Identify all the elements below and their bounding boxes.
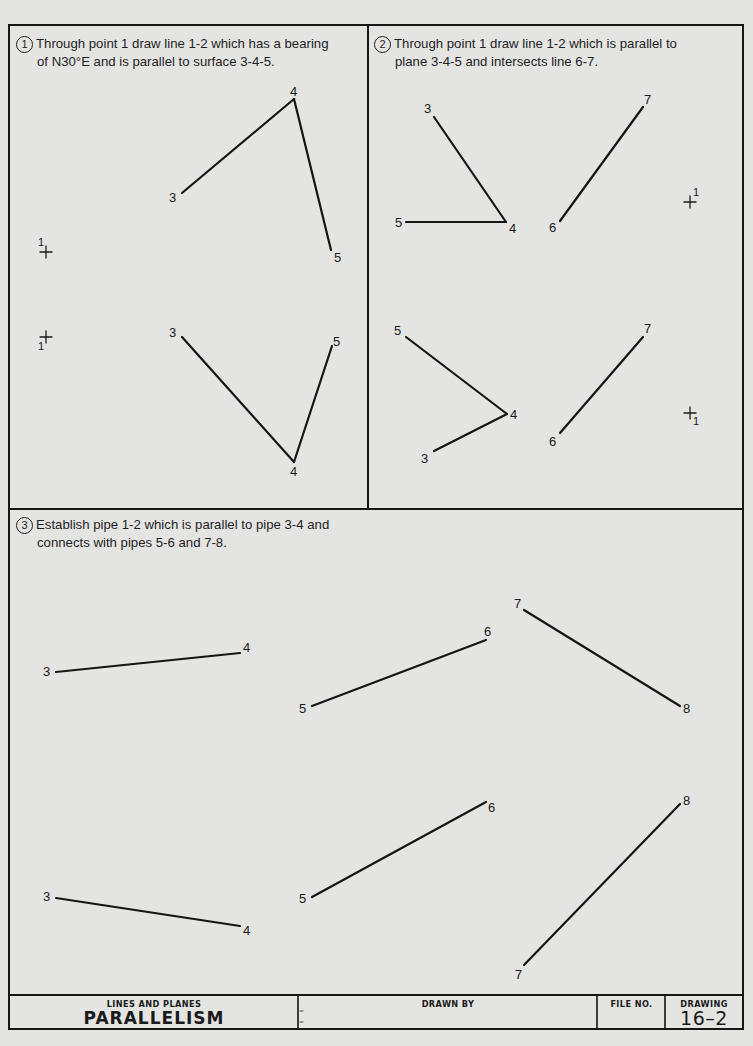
titleblock-file-no-cell[interactable]: FILE NO. (598, 999, 665, 1009)
titleblock-drawing-cell: DRAWING 16–2 (666, 999, 742, 1029)
file-no-label: FILE NO. (598, 999, 665, 1009)
p1-top-view-surface: 3 4 5 1 (38, 84, 341, 265)
point-label: 1 (38, 236, 44, 248)
point-label: 3 (424, 101, 431, 116)
point-label: 5 (299, 701, 306, 716)
point-label: 5 (299, 891, 306, 906)
point-label: 4 (510, 407, 517, 422)
titleblock-subject-cell: LINES AND PLANES PARALLELISM (10, 999, 298, 1028)
point-label: 4 (243, 923, 250, 938)
point-label: 3 (43, 664, 50, 679)
p2-top-view-plane-and-line: 3 4 5 6 7 1 (395, 92, 699, 236)
point-label: 4 (290, 84, 297, 99)
point-label: 1 (693, 415, 699, 427)
point-label: 5 (394, 323, 401, 338)
point-label: 3 (169, 190, 176, 205)
point-label: 4 (243, 640, 250, 655)
point-label: 6 (549, 220, 556, 235)
point-label: 6 (549, 434, 556, 449)
p1-front-view-surface: 3 4 5 1 (38, 325, 340, 479)
point-label: 3 (43, 889, 50, 904)
drawing-title: PARALLELISM (10, 1008, 298, 1028)
point-1-marker: 1 (38, 331, 52, 352)
point-1-marker: 1 (684, 407, 699, 427)
point-label: 3 (169, 325, 176, 340)
geometry-figures: 3 4 5 1 3 4 5 1 3 4 5 6 7 1 (0, 0, 753, 1046)
drawing-number: 16–2 (666, 1007, 742, 1029)
point-label: 7 (514, 596, 521, 611)
point-1-marker: 1 (38, 236, 52, 258)
drawn-by-label: DRAWN BY (299, 999, 597, 1009)
point-label: 7 (644, 321, 651, 336)
point-label: 5 (334, 250, 341, 265)
point-label: 3 (421, 451, 428, 466)
p3-front-view-pipes: 3 4 5 6 7 8 (43, 793, 690, 982)
point-label: 1 (693, 186, 699, 198)
point-label: 4 (290, 464, 297, 479)
point-label: 8 (683, 701, 690, 716)
point-label: 8 (683, 793, 690, 808)
point-label: 7 (515, 967, 522, 982)
point-label: 1 (38, 340, 44, 352)
point-label: 7 (644, 92, 651, 107)
p2-front-view-plane-and-line: 3 4 5 6 7 1 (394, 321, 699, 466)
point-label: 5 (333, 334, 340, 349)
p3-top-view-pipes: 3 4 5 6 7 8 (43, 596, 690, 716)
point-1-marker: 1 (684, 186, 699, 208)
titleblock-drawn-by-cell[interactable]: DRAWN BY (299, 999, 597, 1009)
point-label: 6 (488, 800, 495, 815)
point-label: 5 (395, 215, 402, 230)
point-label: 4 (509, 221, 516, 236)
point-label: 6 (484, 624, 491, 639)
